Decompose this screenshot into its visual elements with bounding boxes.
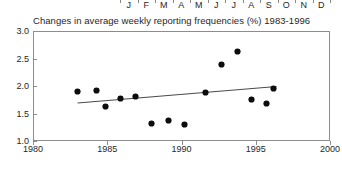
month-label-o-9: O <box>283 0 290 10</box>
month-label-m-4: M <box>195 0 203 10</box>
data-point <box>182 122 187 127</box>
x-tick-mark <box>330 141 331 145</box>
x-tick-mark <box>182 141 183 145</box>
month-tick <box>120 0 121 3</box>
month-label-a-7: A <box>248 0 254 10</box>
x-tick-mark <box>107 141 108 145</box>
x-tick-label-1980: 1980 <box>23 144 43 154</box>
y-tick-mark <box>33 31 37 32</box>
month-axis-strip: JFMAMJJASOND <box>0 0 342 16</box>
x-tick-mark <box>256 141 257 145</box>
month-label-s-8: S <box>266 0 272 10</box>
x-tick-label-2000: 2000 <box>320 144 340 154</box>
y-tick-label-2.5: 2.5 <box>16 54 29 64</box>
month-label-j-0: J <box>126 0 131 10</box>
month-tick <box>190 0 191 3</box>
data-point <box>133 94 138 99</box>
month-tick <box>295 0 296 3</box>
month-tick <box>260 0 261 3</box>
data-point <box>264 101 269 106</box>
chart-title: Changes in average weekly reporting freq… <box>33 15 310 26</box>
data-point <box>219 62 224 67</box>
month-tick <box>155 0 156 3</box>
month-tick <box>173 0 174 3</box>
data-point <box>118 96 123 101</box>
month-label-d-11: D <box>318 0 325 10</box>
month-tick <box>313 0 314 3</box>
month-tick <box>330 0 331 3</box>
month-label-a-3: A <box>178 0 184 10</box>
data-point <box>166 118 171 123</box>
month-tick <box>278 0 279 3</box>
x-tick-label-1990: 1990 <box>171 144 191 154</box>
month-tick <box>138 0 139 3</box>
figure-container: JFMAMJJASOND Changes in average weekly r… <box>0 0 342 170</box>
y-tick-mark <box>33 86 37 87</box>
month-label-j-5: J <box>214 0 219 10</box>
plot-area <box>33 31 330 141</box>
trend-line-path <box>78 87 277 104</box>
month-tick <box>208 0 209 3</box>
month-label-m-2: M <box>160 0 168 10</box>
y-tick-label-2.0: 2.0 <box>16 81 29 91</box>
month-tick <box>225 0 226 3</box>
month-tick <box>243 0 244 3</box>
x-tick-label-1995: 1995 <box>246 144 266 154</box>
data-point <box>249 97 254 102</box>
y-tick-label-3.0: 3.0 <box>16 26 29 36</box>
month-label-n-10: N <box>300 0 307 10</box>
data-point <box>203 90 208 95</box>
month-label-f-1: F <box>143 0 149 10</box>
month-label-j-6: J <box>231 0 236 10</box>
x-tick-label-1985: 1985 <box>97 144 117 154</box>
y-tick-mark <box>33 114 37 115</box>
y-tick-mark <box>33 59 37 60</box>
x-tick-mark <box>33 141 34 145</box>
y-tick-label-1.5: 1.5 <box>16 109 29 119</box>
